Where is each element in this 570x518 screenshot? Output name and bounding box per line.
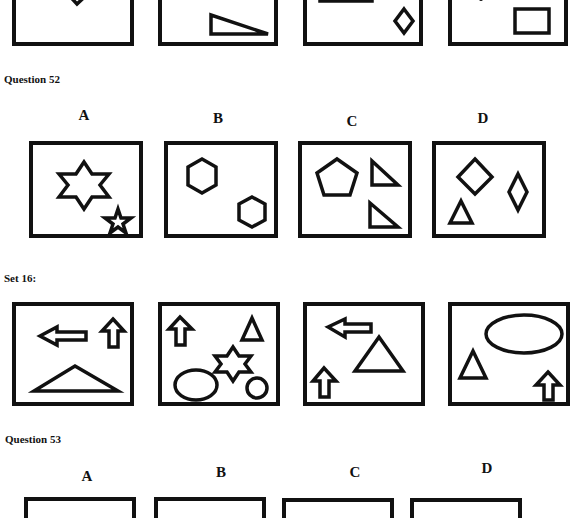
diamond-icon — [458, 159, 492, 194]
six-point-star-icon — [215, 347, 251, 381]
option-panel-c[interactable] — [298, 141, 412, 238]
ellipse-icon — [486, 315, 562, 353]
triangle-icon — [460, 351, 486, 378]
option-label-a: A — [72, 468, 102, 485]
set16-panel-4 — [448, 302, 570, 407]
q53-option-panel-d[interactable] — [410, 498, 522, 518]
question-52-title: Question 52 — [4, 73, 60, 85]
set16-panel-3 — [303, 302, 425, 407]
circle-icon — [247, 378, 267, 398]
option-label-d: D — [468, 110, 498, 127]
hexagon-icon — [239, 197, 265, 227]
rectangle-icon — [515, 9, 549, 33]
triangle-icon — [450, 201, 472, 223]
option-label-b: B — [206, 464, 236, 481]
rectangle-icon — [320, 0, 372, 1]
right-triangle-icon — [370, 203, 398, 227]
diamond-icon — [64, 0, 92, 4]
prev-panel-a — [12, 0, 134, 48]
pentagon-icon — [317, 159, 357, 195]
right-triangle-icon — [211, 15, 268, 34]
option-label-b: B — [203, 110, 233, 127]
option-label-d: D — [472, 460, 502, 477]
set-16-title: Set 16: — [4, 272, 36, 284]
dot-icon — [479, 0, 483, 1]
prev-panel-b — [158, 0, 280, 48]
wide-triangle-icon — [34, 366, 118, 391]
question-53-title: Question 53 — [5, 433, 61, 445]
q53-option-panel-b[interactable] — [154, 497, 266, 517]
option-label-c: C — [337, 113, 367, 130]
set16-panel-2 — [158, 302, 280, 407]
up-arrow-icon — [536, 372, 560, 400]
right-triangle-icon — [372, 161, 398, 185]
triangle-icon — [355, 337, 403, 371]
six-point-star-icon — [59, 162, 109, 209]
option-panel-d[interactable] — [432, 141, 546, 238]
left-arrow-icon — [328, 319, 371, 337]
ellipse-icon — [175, 370, 217, 400]
option-label-a: A — [69, 107, 99, 124]
option-panel-a[interactable] — [29, 141, 143, 238]
option-label-c: C — [340, 464, 370, 481]
prev-panel-d — [448, 0, 570, 48]
left-arrow-icon — [40, 327, 86, 345]
set16-panel-1 — [12, 302, 134, 407]
up-arrow-icon — [102, 319, 124, 347]
q53-option-panel-c[interactable] — [282, 498, 394, 518]
option-panel-b[interactable] — [164, 141, 278, 238]
hexagon-icon — [188, 159, 216, 193]
up-arrow-icon — [169, 317, 192, 345]
triangle-icon — [242, 318, 262, 340]
prev-panel-c — [303, 0, 425, 48]
five-point-star-icon — [105, 209, 131, 233]
diamond-icon — [509, 174, 527, 210]
diamond-icon — [395, 9, 413, 33]
up-arrow-icon — [313, 368, 336, 397]
q53-option-panel-a[interactable] — [24, 497, 136, 517]
